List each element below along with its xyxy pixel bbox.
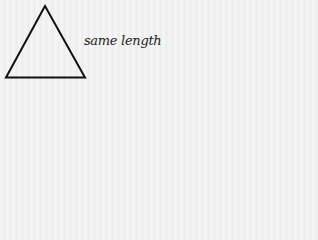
equilateral-triangle	[6, 6, 85, 78]
triangle-label: same length	[84, 33, 161, 48]
